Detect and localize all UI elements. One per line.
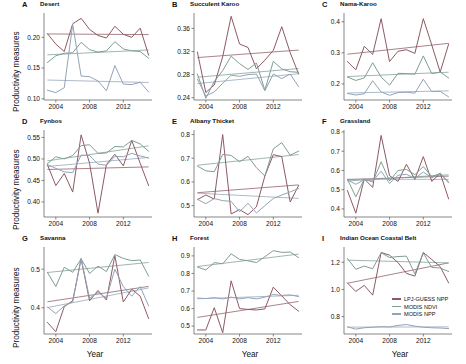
series-line-lpj-guess-npp bbox=[197, 281, 298, 333]
series-line-modis-ndvi bbox=[347, 56, 448, 85]
x-tick-label: 2004 bbox=[198, 337, 213, 344]
x-tick-label: 2008 bbox=[232, 103, 247, 110]
y-tick-label: 0.5 bbox=[31, 266, 40, 273]
y-tick-label: 0.8 bbox=[331, 313, 340, 320]
trend-line-lpj-guess-npp bbox=[347, 43, 448, 54]
panel-c: CNama-Karoo0.20.30.4200420082012 bbox=[300, 0, 460, 120]
plot-area-d: 0.400.450.500.55200420082012 bbox=[0, 117, 160, 237]
y-axis-label-row2: Productivity measures bbox=[12, 149, 21, 230]
x-tick-label: 2012 bbox=[416, 337, 431, 344]
y-tick-label: 0.6 bbox=[181, 305, 190, 312]
legend-label-modis-npp: MODIS NPP bbox=[404, 311, 435, 317]
x-tick-label: 2008 bbox=[232, 220, 247, 227]
x-tick-label: 2008 bbox=[82, 337, 97, 344]
plot-area-c: 0.20.30.4200420082012 bbox=[300, 0, 460, 120]
series-line-modis-npp bbox=[47, 153, 148, 172]
x-tick-label: 2004 bbox=[48, 337, 63, 344]
x-tick-label: 2012 bbox=[416, 220, 431, 227]
trend-line-lpj-guess-npp bbox=[47, 167, 148, 170]
y-tick-label: 0.36 bbox=[177, 25, 190, 32]
y-tick-label: 0.40 bbox=[27, 198, 40, 205]
y-tick-label: 0.4 bbox=[331, 205, 340, 212]
x-axis-label-panel-G: Year bbox=[40, 350, 150, 359]
y-tick-label: 0.5 bbox=[181, 202, 190, 209]
y-tick-label: 0.7 bbox=[181, 155, 190, 162]
y-tick-label: 0.15 bbox=[27, 64, 40, 71]
x-tick-label: 2008 bbox=[382, 337, 397, 344]
plot-area-a: 0.100.150.20200420082012 bbox=[0, 0, 160, 120]
y-axis-label-row1: Productivity measures bbox=[12, 31, 21, 112]
legend-item: MODIS NPP bbox=[392, 311, 448, 317]
y-tick-label: 0.4 bbox=[331, 18, 340, 25]
y-tick-label: 0.45 bbox=[27, 177, 40, 184]
y-tick-label: 0.4 bbox=[31, 304, 40, 311]
x-tick-label: 2008 bbox=[232, 337, 247, 344]
plot-area-f: 0.40.50.60.70.8200420082012 bbox=[300, 117, 460, 237]
x-tick-label: 2004 bbox=[48, 103, 63, 110]
panel-e: EAlbany Thicket0.50.60.70.8200420082012 bbox=[150, 117, 310, 237]
plot-area-e: 0.50.60.70.8200420082012 bbox=[150, 117, 310, 237]
x-tick-label: 2012 bbox=[116, 103, 131, 110]
y-tick-label: 0.55 bbox=[27, 134, 40, 141]
y-tick-label: 0.2 bbox=[331, 80, 340, 87]
series-line-lpj-guess-npp bbox=[347, 252, 448, 295]
series-line-modis-ndvi bbox=[47, 255, 148, 287]
y-tick-label: 0.5 bbox=[331, 186, 340, 193]
x-tick-label: 2004 bbox=[198, 103, 213, 110]
y-tick-label: 0.3 bbox=[331, 49, 340, 56]
x-tick-label: 2012 bbox=[416, 103, 431, 110]
plot-area-h: 0.50.60.70.80.9200420082012 bbox=[150, 234, 310, 354]
x-tick-label: 2004 bbox=[348, 103, 363, 110]
x-tick-label: 2008 bbox=[82, 103, 97, 110]
legend-label-lpj-guess-npp: LPJ-GUESS NPP bbox=[404, 296, 448, 302]
y-tick-label: 0.50 bbox=[27, 155, 40, 162]
plot-area-b: 0.240.280.320.36200420082012 bbox=[150, 0, 310, 120]
x-axis-label-panel-H: Year bbox=[195, 350, 305, 359]
y-tick-label: 0.6 bbox=[331, 167, 340, 174]
legend-swatch-lpj-guess-npp bbox=[392, 298, 401, 300]
series-line-modis-ndvi bbox=[47, 42, 148, 63]
y-tick-label: 0.8 bbox=[331, 128, 340, 135]
y-tick-label: 0.24 bbox=[177, 94, 190, 101]
y-tick-label: 0.32 bbox=[177, 48, 190, 55]
y-tick-label: 0.8 bbox=[181, 270, 190, 277]
trend-line-lpj-guess-npp bbox=[347, 263, 448, 283]
series-line-lpj-guess-npp bbox=[47, 135, 148, 213]
x-tick-label: 2004 bbox=[48, 220, 63, 227]
panel-b: BSucculent Karoo0.240.280.320.3620042008… bbox=[150, 0, 310, 120]
x-tick-label: 2004 bbox=[198, 220, 213, 227]
x-tick-label: 2012 bbox=[266, 337, 281, 344]
y-tick-label: 1.0 bbox=[331, 286, 340, 293]
legend-label-modis-ndvi: MODIS NDVI bbox=[404, 304, 437, 310]
x-axis-label-panel-I: Year bbox=[345, 350, 455, 359]
y-tick-label: 0.9 bbox=[181, 252, 190, 259]
panel-g: GSavanna0.40.5200420082012 bbox=[0, 234, 160, 354]
x-tick-label: 2012 bbox=[266, 103, 281, 110]
panel-h: HForest0.50.60.70.80.9200420082012 bbox=[150, 234, 310, 354]
trend-line-modis-npp bbox=[197, 74, 298, 84]
x-tick-label: 2008 bbox=[382, 103, 397, 110]
figure-panel-grid: IIndian Ocean Coastal Belt0.81.01.220042… bbox=[0, 0, 466, 364]
y-tick-label: 1.2 bbox=[331, 259, 340, 266]
legend-item: MODIS NDVI bbox=[392, 304, 448, 310]
y-tick-label: 0.6 bbox=[181, 178, 190, 185]
x-tick-label: 2012 bbox=[116, 337, 131, 344]
panel-d: DFynbos0.400.450.500.55200420082012 bbox=[0, 117, 160, 237]
plot-area-i: 0.81.01.2200420082012 bbox=[300, 234, 460, 354]
legend-item: LPJ-GUESS NPP bbox=[392, 296, 448, 302]
panel-i: IIndian Ocean Coastal Belt0.81.01.220042… bbox=[300, 234, 460, 354]
y-tick-label: 0.8 bbox=[181, 131, 190, 138]
series-line-lpj-guess-npp bbox=[47, 18, 148, 55]
trend-line-lpj-guess-npp bbox=[47, 34, 148, 35]
y-tick-label: 0.7 bbox=[331, 148, 340, 155]
trend-line-lpj-guess-npp bbox=[197, 185, 298, 193]
y-tick-label: 0.5 bbox=[181, 322, 190, 329]
series-line-lpj-guess-npp bbox=[347, 135, 448, 213]
plot-area-g: 0.40.5200420082012 bbox=[0, 234, 160, 354]
y-axis-label-row3: Productivity measures bbox=[12, 267, 21, 348]
x-tick-label: 2008 bbox=[82, 220, 97, 227]
y-tick-label: 0.28 bbox=[177, 71, 190, 78]
y-tick-label: 0.20 bbox=[27, 34, 40, 41]
legend: LPJ-GUESS NPP MODIS NDVI MODIS NPP bbox=[392, 296, 448, 319]
series-line-modis-npp bbox=[347, 79, 448, 97]
